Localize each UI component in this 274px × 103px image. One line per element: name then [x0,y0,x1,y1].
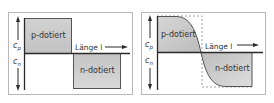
length-label: Länge l [205,42,232,51]
panel-abrupt-junction: cp cn p-dotiert n-dotiert Länge l [9,13,133,95]
n-doped-label: n-dotiert [215,64,250,73]
n-doped-label: n-dotiert [80,66,115,75]
length-label: Länge l [75,43,102,52]
p-doped-label: p-dotiert [31,31,66,40]
panel-graded-junction: cp cn p-dotiert n-dotiert Länge l [142,13,266,95]
p-doped-label: p-dotiert [161,30,196,39]
diagram-canvas: cp cn p-dotiert n-dotiert Länge l cp cn … [0,0,274,103]
